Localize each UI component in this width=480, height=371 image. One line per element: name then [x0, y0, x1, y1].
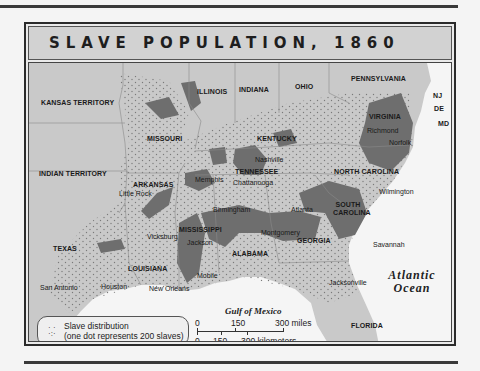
scale-miles-150: 150: [231, 318, 245, 328]
state-label: SOUTH CAROLINA: [333, 201, 363, 217]
gulf-of-mexico-label: Gulf of Mexico: [225, 306, 282, 316]
state-label: GEORGIA: [297, 237, 331, 244]
atlantic-label: Atlantic Ocean: [388, 268, 435, 295]
state-label: INDIANA: [239, 86, 269, 93]
city-label: Little Rock: [119, 190, 152, 197]
state-label: VIRGINIA: [369, 113, 401, 120]
title-bar: SLAVE POPULATION, 1860: [28, 26, 452, 60]
state-label: NJ: [433, 92, 442, 99]
scale-tick: [197, 328, 198, 335]
city-label: San Antonio: [40, 284, 78, 291]
city-label: Jackson: [187, 239, 213, 246]
state-label: ILLINOIS: [197, 88, 227, 95]
city-label: Jacksonville: [329, 279, 367, 286]
state-label: KANSAS TERRITORY: [41, 99, 114, 106]
city-label: Chattanooga: [233, 179, 273, 186]
city-label: Nashville: [255, 156, 283, 163]
scale-miles-0: 0: [195, 318, 200, 328]
state-label: ALABAMA: [232, 250, 268, 257]
scale-tick: [247, 331, 248, 335]
scale-km-300: 300 kilometers: [241, 336, 296, 342]
city-label: Vicksburg: [147, 233, 178, 240]
city-label: Memphis: [195, 176, 223, 183]
city-label: Richmond: [367, 127, 399, 134]
state-label: MISSISSIPPI: [179, 226, 222, 233]
scale-tick: [221, 331, 222, 335]
scale-bar: 0 150 300 miles 0 150 300 kilometers: [195, 318, 325, 342]
bottom-rule: [24, 361, 458, 364]
state-label: TEXAS: [53, 245, 77, 252]
state-label: ARKANSAS: [133, 181, 173, 188]
scale-km-150: 150: [213, 336, 227, 342]
dot-symbol-icon: · ··:·: [48, 325, 56, 337]
scale-tick: [283, 328, 284, 332]
city-label: Mobile: [197, 272, 218, 279]
state-label: LOUISIANA: [128, 265, 167, 272]
city-label: Houston: [101, 283, 127, 290]
map-frame: SLAVE POPULATION, 1860: [24, 22, 456, 346]
legend-line-1: Slave distribution: [64, 321, 184, 331]
state-label: PENNSYLVANIA: [351, 75, 406, 82]
city-label: Montgomery: [261, 229, 300, 236]
state-label: OHIO: [295, 83, 313, 90]
atlantic-ocean-label: Atlantic Ocean: [377, 269, 447, 295]
scale-km-0: 0: [195, 336, 200, 342]
map-title: SLAVE POPULATION, 1860: [49, 34, 400, 52]
state-label: INDIAN TERRITORY: [39, 170, 107, 177]
legend-text: Slave distribution (one dot represents 2…: [64, 321, 184, 341]
city-label: Birmingham: [213, 206, 250, 213]
map-area: KANSAS TERRITORY MISSOURI ILLINOIS INDIA…: [28, 62, 452, 342]
state-label: DE: [434, 105, 444, 112]
scale-line: [197, 331, 283, 332]
legend: · ··:· Slave distribution (one dot repre…: [37, 316, 189, 342]
city-label: Norfolk: [389, 139, 411, 146]
state-label: MISSOURI: [147, 135, 182, 142]
top-rule: [0, 5, 458, 8]
state-label: KENTUCKY: [257, 135, 297, 142]
state-label: TENNESSEE: [235, 168, 278, 175]
city-label: Savannah: [373, 241, 405, 248]
scale-miles-300: 300 miles: [275, 318, 311, 328]
city-label: Wilmington: [379, 188, 414, 195]
state-label: NORTH CAROLINA: [334, 168, 399, 175]
city-label: Atlanta: [291, 206, 313, 213]
city-label: New Orleans: [149, 285, 189, 292]
state-label: MD: [438, 120, 449, 127]
scale-tick: [235, 328, 236, 332]
legend-line-2: (one dot represents 200 slaves): [64, 331, 184, 341]
state-label: FLORIDA: [351, 322, 383, 329]
